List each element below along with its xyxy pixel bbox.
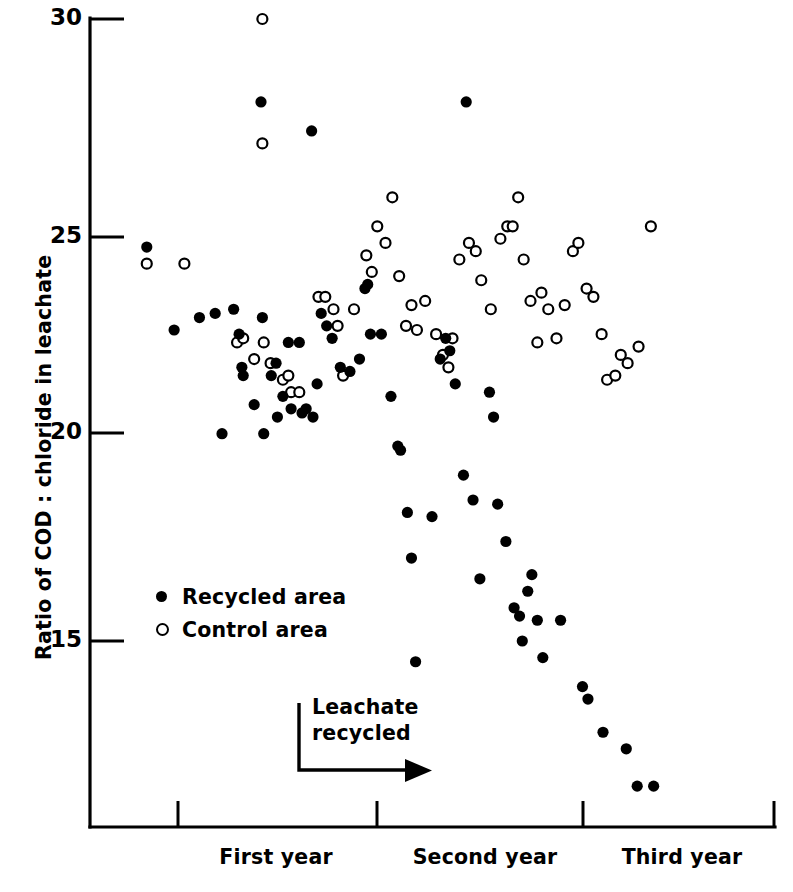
data-point xyxy=(179,259,189,269)
data-point xyxy=(141,241,152,252)
data-point xyxy=(555,615,566,626)
data-point xyxy=(234,329,245,340)
axes xyxy=(90,18,775,827)
data-point xyxy=(335,362,346,373)
data-point xyxy=(597,329,607,339)
data-point xyxy=(395,445,406,456)
data-point xyxy=(362,279,373,290)
data-point xyxy=(216,428,227,439)
data-point xyxy=(401,321,411,331)
data-point xyxy=(361,250,371,260)
data-point xyxy=(406,300,416,310)
legend: Recycled area Control area xyxy=(156,580,346,646)
scatter-chart-figure: Ratio of COD : chloride in leachate 30 2… xyxy=(0,0,793,892)
data-point xyxy=(522,586,533,597)
data-point xyxy=(412,325,422,335)
data-point xyxy=(376,329,387,340)
data-point xyxy=(514,611,525,622)
data-point xyxy=(344,366,355,377)
data-point xyxy=(582,693,593,704)
data-point xyxy=(513,192,523,202)
data-point xyxy=(492,499,503,510)
data-point xyxy=(410,656,421,667)
series-recycled-area-points xyxy=(141,96,659,791)
data-point xyxy=(454,255,464,265)
data-point xyxy=(321,320,332,331)
data-point xyxy=(577,681,588,692)
data-point xyxy=(286,403,297,414)
data-point xyxy=(210,308,221,319)
data-point xyxy=(573,238,583,248)
data-point xyxy=(277,391,288,402)
data-point xyxy=(228,304,239,315)
data-point xyxy=(142,259,152,269)
data-point xyxy=(367,267,377,277)
y-tick-label-20: 20 xyxy=(26,418,82,444)
data-point xyxy=(621,743,632,754)
data-point xyxy=(500,536,511,547)
data-point xyxy=(526,296,536,306)
data-point xyxy=(484,387,495,398)
data-point xyxy=(294,337,305,348)
y-tick-label-15: 15 xyxy=(26,626,82,652)
data-point xyxy=(354,353,365,364)
data-point xyxy=(634,342,644,352)
data-point xyxy=(283,337,294,348)
data-point xyxy=(257,312,268,323)
data-point xyxy=(467,494,478,505)
data-point xyxy=(536,288,546,298)
legend-label-recycled: Recycled area xyxy=(182,585,346,609)
data-point xyxy=(495,234,505,244)
x-tick-label-third-year: Third year xyxy=(602,845,762,869)
data-point xyxy=(406,552,417,563)
legend-label-control: Control area xyxy=(182,618,328,642)
data-point xyxy=(316,308,327,319)
data-point xyxy=(532,337,542,347)
legend-item-recycled: Recycled area xyxy=(156,580,346,613)
data-point xyxy=(249,354,259,364)
y-tick-label-30: 30 xyxy=(26,4,82,30)
data-point xyxy=(257,14,267,24)
data-point xyxy=(426,511,437,522)
data-point xyxy=(255,96,266,107)
data-point xyxy=(488,411,499,422)
data-point xyxy=(532,615,543,626)
data-point xyxy=(349,304,359,314)
data-point xyxy=(365,329,376,340)
legend-item-control: Control area xyxy=(156,613,346,646)
data-point xyxy=(327,333,338,344)
data-point xyxy=(486,304,496,314)
data-point xyxy=(517,635,528,646)
data-point xyxy=(551,333,561,343)
data-point xyxy=(588,292,598,302)
data-point xyxy=(283,371,293,381)
y-tick-label-25: 25 xyxy=(26,222,82,248)
data-point xyxy=(537,652,548,663)
data-point xyxy=(258,428,269,439)
data-point xyxy=(560,300,570,310)
data-point xyxy=(526,569,537,580)
x-tick-label-second-year: Second year xyxy=(395,845,575,869)
x-tick-label-first-year: First year xyxy=(196,845,356,869)
data-point xyxy=(249,399,260,410)
data-point xyxy=(623,358,633,368)
data-point xyxy=(461,96,472,107)
data-point xyxy=(597,727,608,738)
data-point xyxy=(311,378,322,389)
data-point xyxy=(440,333,451,344)
data-point xyxy=(632,781,643,792)
data-point xyxy=(320,292,330,302)
data-point xyxy=(519,255,529,265)
data-point xyxy=(648,781,659,792)
data-point xyxy=(333,321,343,331)
data-point xyxy=(385,391,396,402)
data-point xyxy=(266,370,277,381)
data-point xyxy=(329,304,339,314)
data-point xyxy=(508,221,518,231)
data-point xyxy=(387,192,397,202)
data-point xyxy=(294,387,304,397)
data-point xyxy=(372,221,382,231)
data-point xyxy=(307,411,318,422)
filled-circle-icon xyxy=(156,591,182,602)
data-point xyxy=(646,221,656,231)
